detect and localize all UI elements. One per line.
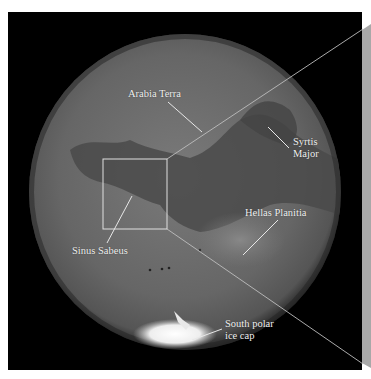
south-polar-ice-cap	[133, 319, 217, 349]
label-syrtis-line1: Syrtis	[293, 136, 319, 148]
label-south-polar-ice-cap: South polar ice cap	[225, 318, 274, 342]
label-south-polar-line1: South polar	[225, 318, 274, 330]
label-south-polar-line2: ice cap	[225, 330, 274, 342]
label-arabia-terra: Arabia Terra	[128, 88, 181, 100]
label-syrtis-line2: Major	[293, 148, 319, 160]
zoom-panel	[362, 24, 371, 368]
label-syrtis-major: Syrtis Major	[293, 136, 319, 160]
hellas-basin	[195, 212, 285, 268]
label-hellas-planitia: Hellas Planitia	[245, 207, 307, 219]
mars-image	[0, 0, 371, 379]
label-sinus-sabeus: Sinus Sabeus	[72, 245, 128, 257]
